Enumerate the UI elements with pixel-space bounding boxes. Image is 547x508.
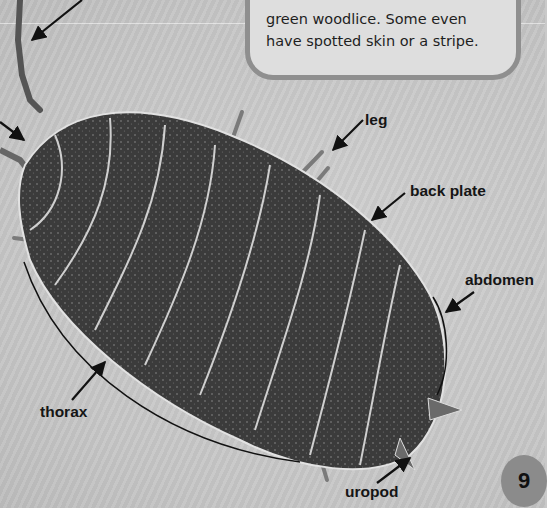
page-number-badge: 9 <box>501 455 547 507</box>
antenna <box>0 0 40 170</box>
label-leg: leg <box>365 111 387 129</box>
label-back-plate: back plate <box>410 182 486 200</box>
page-number: 9 <box>518 468 530 494</box>
label-thorax: thorax <box>40 403 87 421</box>
label-uropod: uropod <box>345 483 398 501</box>
label-abdomen: abdomen <box>465 271 534 289</box>
